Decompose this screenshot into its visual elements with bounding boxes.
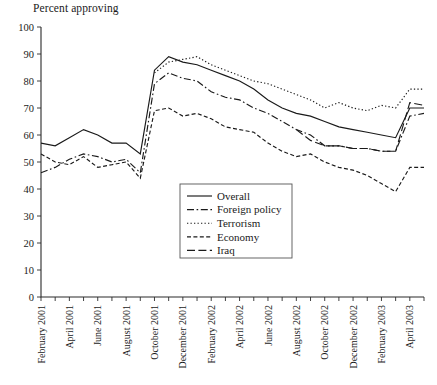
x-tick-label: February 2002	[206, 305, 217, 364]
y-tick-label: 40	[24, 184, 35, 195]
legend-label-terrorism: Terrorism	[217, 217, 261, 229]
series-line-overall	[41, 57, 424, 154]
y-tick-label: 30	[24, 211, 35, 222]
series-line-economy	[41, 108, 424, 192]
y-axis-tick-group: 0102030405060708090100	[18, 22, 41, 303]
x-tick-label: February 2003	[376, 305, 387, 364]
x-tick-label: October 2002	[319, 305, 330, 360]
series-line-foreign-policy	[41, 73, 424, 173]
x-tick-label: April 2001	[64, 305, 75, 349]
x-tick-label: August 2001	[121, 305, 132, 356]
x-axis-tick-group	[41, 297, 424, 301]
y-tick-label: 70	[24, 103, 35, 114]
x-tick-label: October 2001	[149, 305, 160, 360]
y-tick-label: 60	[24, 130, 35, 141]
y-tick-label: 50	[24, 157, 35, 168]
y-tick-label: 100	[18, 22, 34, 33]
legend-label-foreign-policy: Foreign policy	[217, 203, 282, 215]
x-tick-label: February 2001	[36, 305, 47, 364]
y-tick-label: 0	[29, 292, 34, 303]
legend-label-economy: Economy	[217, 231, 260, 243]
x-tick-label: December 2001	[177, 305, 188, 369]
approval-ratings-chart: Percent approving 0102030405060708090100…	[0, 0, 437, 385]
x-tick-label: April 2003	[404, 305, 415, 349]
x-tick-label: December 2002	[348, 305, 359, 369]
x-tick-label: June 2002	[263, 305, 274, 346]
y-tick-label: 80	[24, 76, 35, 87]
x-tick-label: April 2002	[234, 305, 245, 349]
x-tick-label: August 2002	[291, 305, 302, 356]
series-group	[41, 57, 424, 192]
y-tick-label: 10	[24, 265, 35, 276]
chart-canvas: 0102030405060708090100 OverallForeign po…	[0, 0, 437, 385]
y-tick-label: 20	[24, 238, 35, 249]
legend-label-overall: Overall	[217, 190, 250, 202]
x-axis-label-group: February 2001April 2001June 2001August 2…	[36, 305, 416, 369]
series-line-iraq	[296, 103, 424, 152]
x-tick-label: June 2001	[92, 305, 103, 346]
legend-label-iraq: Iraq	[217, 244, 235, 256]
y-tick-label: 90	[24, 49, 35, 60]
chart-legend: OverallForeign policyTerrorismEconomyIra…	[180, 184, 292, 258]
